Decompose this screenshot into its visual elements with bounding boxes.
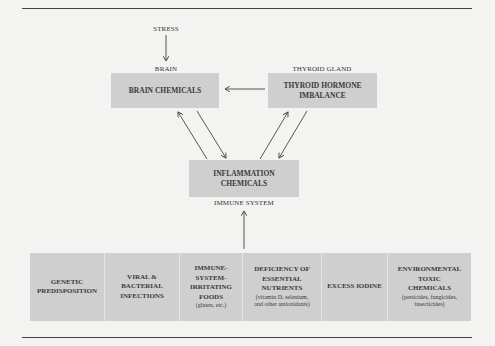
thyroid-gland-label: THYROID GLAND xyxy=(282,65,362,73)
brain-chemicals-text: BRAIN CHEMICALS xyxy=(129,86,201,96)
factor-text: DEFICIENCY OF xyxy=(254,265,310,275)
factor-genetic: GENETIC PREDISPOSITION xyxy=(30,253,105,321)
factor-text: IMMUNE- xyxy=(194,264,227,274)
factor-text: FOODS xyxy=(199,293,223,303)
factor-subtext: (pesticides, fungicides, xyxy=(402,294,457,302)
factor-text: CHEMICALS xyxy=(408,284,451,294)
immune-system-label: IMMUNE SYSTEM xyxy=(204,199,284,207)
inflammation-chemicals-box: INFLAMMATION CHEMICALS xyxy=(189,160,299,197)
brain-chemicals-box: BRAIN CHEMICALS xyxy=(111,73,219,108)
factor-text: EXCESS IODINE xyxy=(327,282,382,292)
factor-text: TOXIC xyxy=(418,275,441,285)
factor-text: ENVIRONMENTAL xyxy=(398,265,461,275)
factor-text: VIRAL & xyxy=(127,273,157,283)
factor-text: PREDISPOSITION xyxy=(37,287,97,297)
thyroid-text-line2: IMBALANCE xyxy=(299,91,346,101)
arrow-brain-to-inflammation xyxy=(197,111,226,158)
factor-text: SYSTEM- xyxy=(195,274,226,284)
thyroid-text-line1: THYROID HORMONE xyxy=(283,81,361,91)
stress-label: STRESS xyxy=(146,25,186,33)
thyroid-hormone-box: THYROID HORMONE IMBALANCE xyxy=(268,73,377,108)
factor-subtext: (gluten, etc.) xyxy=(196,302,227,310)
inflammation-text-line1: INFLAMMATION xyxy=(213,169,275,179)
factor-text: NUTRIENTS xyxy=(262,284,303,294)
factor-nutrient-deficiency: DEFICIENCY OF ESSENTIAL NUTRIENTS (vitam… xyxy=(243,253,322,321)
factor-excess-iodine: EXCESS IODINE xyxy=(322,253,388,321)
factor-subtext: and other antioxidants) xyxy=(254,301,309,309)
factor-irritating-foods: IMMUNE- SYSTEM- IRRITATING FOODS (gluten… xyxy=(180,253,243,321)
arrow-inflammation-to-brain xyxy=(178,112,207,159)
factor-text: INFECTIONS xyxy=(120,292,164,302)
factor-subtext: (vitamin D, selenium, xyxy=(256,294,308,302)
factor-text: BACTERIAL xyxy=(121,282,163,292)
factor-toxic-chemicals: ENVIRONMENTAL TOXIC CHEMICALS (pesticide… xyxy=(388,253,471,321)
arrow-thyroid-to-inflammation xyxy=(279,111,307,158)
factor-text: ESSENTIAL xyxy=(262,275,301,285)
factor-text: IRRITATING xyxy=(190,283,232,293)
factor-infections: VIRAL & BACTERIAL INFECTIONS xyxy=(105,253,180,321)
inflammation-text-line2: CHEMICALS xyxy=(221,179,267,189)
contributing-factors-strip: GENETIC PREDISPOSITION VIRAL & BACTERIAL… xyxy=(30,253,471,321)
factor-subtext: insecticides) xyxy=(415,301,445,309)
brain-label: BRAIN xyxy=(146,65,186,73)
arrow-inflammation-to-thyroid xyxy=(260,112,288,159)
factor-text: GENETIC xyxy=(51,278,83,288)
